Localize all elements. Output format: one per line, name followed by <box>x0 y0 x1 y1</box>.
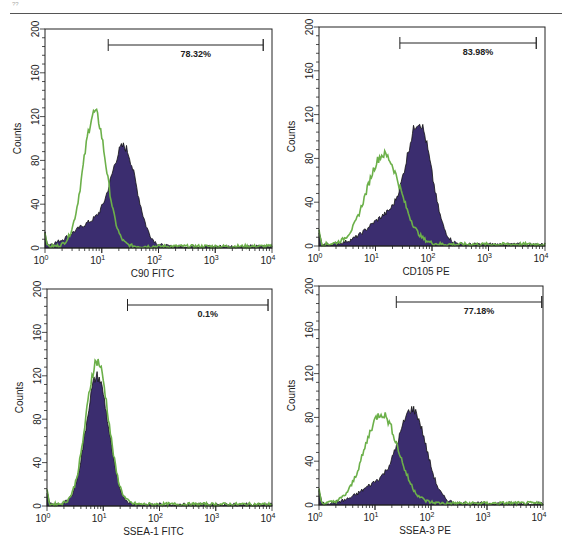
y-axis-title: Counts <box>14 382 25 414</box>
x-tick-label: 103 <box>475 511 490 523</box>
y-tick-label: 120 <box>304 365 315 382</box>
stained-histogram <box>47 372 272 506</box>
x-tick-label: 104 <box>260 512 275 524</box>
x-axis-title: SSEA-3 PE <box>399 525 451 536</box>
x-tick-label: 100 <box>33 254 48 266</box>
x-tick-label: 101 <box>363 511 378 523</box>
y-tick-label: 40 <box>32 457 43 469</box>
x-tick-label: 100 <box>307 252 322 264</box>
x-tick-label: 102 <box>148 512 163 524</box>
y-axis-title: Counts <box>286 380 297 412</box>
y-tick-label: 0 <box>304 243 315 249</box>
y-tick-label: 200 <box>32 280 43 297</box>
y-axis-title: Counts <box>286 121 297 153</box>
y-tick-label: 80 <box>30 154 41 166</box>
histogram-ssea3-pe: 100101102103104SSEA-3 PE04080120160200Co… <box>279 266 555 545</box>
y-tick-label: 200 <box>30 20 41 37</box>
x-tick-label: 101 <box>90 254 105 266</box>
y-tick-label: 80 <box>304 152 315 164</box>
x-tick-label: 102 <box>147 254 162 266</box>
gate-percentage: 0.1% <box>198 309 219 319</box>
x-tick-label: 100 <box>35 512 50 524</box>
y-tick-label: 160 <box>32 324 43 341</box>
stained-histogram <box>319 406 543 505</box>
y-tick-label: 160 <box>30 64 41 81</box>
y-tick-label: 0 <box>30 245 41 251</box>
gate-percentage: 78.32% <box>180 49 211 59</box>
y-tick-label: 120 <box>304 106 315 123</box>
y-tick-label: 160 <box>304 321 315 338</box>
y-tick-label: 80 <box>32 413 43 425</box>
x-tick-label: 103 <box>477 252 492 264</box>
histogram-cd105-pe: 100101102103104CD105 PE04080120160200Cou… <box>279 7 557 286</box>
y-tick-label: 120 <box>30 108 41 125</box>
y-tick-label: 160 <box>304 62 315 79</box>
y-tick-label: 0 <box>32 503 43 509</box>
y-tick-label: 200 <box>304 277 315 294</box>
x-tick-label: 103 <box>204 254 219 266</box>
y-tick-label: 80 <box>304 411 315 423</box>
x-tick-label: 104 <box>533 252 548 264</box>
x-tick-label: 104 <box>531 511 546 523</box>
x-tick-label: 101 <box>364 252 379 264</box>
y-tick-label: 40 <box>30 198 41 210</box>
y-tick-label: 120 <box>32 367 43 384</box>
histogram-ssea1-fitc: 100101102103104SSEA-1 FITC04080120160200… <box>7 269 284 546</box>
x-tick-label: 100 <box>307 511 322 523</box>
plot-frame <box>45 29 272 248</box>
x-tick-label: 103 <box>204 512 219 524</box>
x-axis-title: SSEA-1 FITC <box>123 526 184 537</box>
isotype-line <box>45 109 272 248</box>
x-tick-label: 102 <box>420 252 435 264</box>
y-tick-label: 40 <box>304 196 315 208</box>
y-tick-label: 40 <box>304 455 315 467</box>
y-axis-title: Counts <box>12 123 23 155</box>
gate-percentage: 83.98% <box>463 47 494 57</box>
page-number: ?? <box>12 1 19 7</box>
x-tick-label: 101 <box>92 512 107 524</box>
x-tick-label: 104 <box>260 254 275 266</box>
y-tick-label: 200 <box>304 18 315 35</box>
histogram-c90-fitc: 100101102103104C90 FITC04080120160200Cou… <box>5 9 284 288</box>
y-tick-label: 0 <box>304 502 315 508</box>
gate-percentage: 77.18% <box>464 306 495 316</box>
x-tick-label: 102 <box>419 511 434 523</box>
